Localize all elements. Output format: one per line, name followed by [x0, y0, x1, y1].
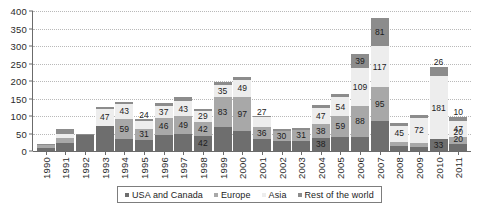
bar-segment-asia[interactable]: 109 [351, 68, 369, 106]
bar-segment-asia[interactable]: 47 [96, 109, 114, 125]
bar-segment-usa-and-canada[interactable] [273, 141, 291, 151]
bar-segment-europe[interactable]: 59 [115, 119, 133, 140]
bar-column-1996[interactable]: 4637 [154, 11, 174, 151]
bar-segment-rest-of-the-world[interactable]: 39 [351, 54, 369, 68]
bar-column-1999[interactable]: 8335 [213, 11, 233, 151]
bar-segment-asia[interactable]: 45 [390, 126, 408, 142]
bar-column-1992[interactable] [75, 11, 95, 151]
bar-segment-europe[interactable]: 88 [351, 106, 369, 137]
bar-segment-usa-and-canada[interactable] [351, 137, 369, 151]
bar-stack[interactable]: 4637 [155, 103, 173, 151]
bar-column-2007[interactable]: 9511781 [370, 11, 390, 151]
bar-segment-asia[interactable]: 43 [115, 104, 133, 119]
bar-segment-europe[interactable]: 46 [155, 118, 173, 134]
bar-segment-usa-and-canada[interactable] [115, 139, 133, 151]
bar-stack[interactable]: 45 [390, 123, 408, 151]
bar-column-1997[interactable]: 4943 [173, 11, 193, 151]
bar-segment-rest-of-the-world[interactable] [115, 102, 133, 104]
bar-segment-usa-and-canada[interactable] [155, 135, 173, 151]
bar-column-1993[interactable]: 47 [95, 11, 115, 151]
bar-segment-rest-of-the-world[interactable] [233, 77, 251, 80]
bar-segment-rest-of-the-world[interactable]: 81 [371, 18, 389, 46]
bar-stack[interactable]: 424229 [194, 109, 212, 151]
bar-stack[interactable]: 30 [273, 129, 291, 151]
bar-segment-usa-and-canada[interactable] [76, 135, 94, 151]
bar-segment-usa-and-canada[interactable]: 20 [449, 144, 467, 151]
bar-segment-europe[interactable] [56, 138, 74, 143]
bar-stack[interactable]: 3124 [135, 119, 153, 151]
bar-stack[interactable]: 9749 [233, 77, 251, 151]
bar-segment-rest-of-the-world[interactable] [331, 94, 349, 98]
bar-segment-rest-of-the-world[interactable] [312, 105, 330, 108]
bar-segment-asia[interactable]: 49 [233, 80, 251, 97]
bar-stack[interactable]: 31 [292, 128, 310, 151]
bar-segment-usa-and-canada[interactable] [135, 140, 153, 151]
bar-segment-europe[interactable]: 49 [174, 116, 192, 133]
bar-segment-rest-of-the-world[interactable] [76, 134, 94, 136]
bar-column-1994[interactable]: 5943 [115, 11, 135, 151]
bar-segment-europe[interactable]: 36 [253, 127, 271, 140]
bar-segment-usa-and-canada[interactable]: 33 [430, 139, 448, 151]
bar-column-2010[interactable]: 3318126 [429, 11, 449, 151]
bar-segment-asia[interactable]: 117 [371, 46, 389, 87]
bar-segment-rest-of-the-world[interactable]: 26 [430, 67, 448, 76]
bar-stack[interactable]: 4943 [174, 97, 192, 151]
bar-segment-usa-and-canada[interactable] [292, 141, 310, 152]
legend-item-asia[interactable]: Asia [262, 190, 287, 200]
bar-segment-asia[interactable]: 54 [331, 97, 349, 116]
bar-segment-usa-and-canada[interactable]: 38 [312, 138, 330, 151]
bar-segment-asia[interactable]: 37 [155, 106, 173, 119]
bar-segment-usa-and-canada[interactable] [56, 143, 74, 151]
bar-segment-asia[interactable]: 35 [214, 85, 232, 97]
bar-segment-asia[interactable]: 181 [430, 76, 448, 139]
bar-segment-rest-of-the-world[interactable] [174, 97, 192, 101]
bar-stack[interactable]: 3318126 [430, 67, 448, 151]
bar-stack[interactable]: 72 [410, 115, 428, 151]
bar-stack[interactable]: 8810939 [351, 54, 369, 151]
bar-segment-europe[interactable]: 30 [273, 131, 291, 142]
bar-stack[interactable]: 3627 [253, 116, 271, 151]
bar-column-1991[interactable] [56, 11, 76, 151]
bar-column-2005[interactable]: 5954 [331, 11, 351, 151]
bar-segment-asia[interactable]: 29 [194, 111, 212, 121]
bar-segment-usa-and-canada[interactable] [96, 126, 114, 151]
bar-stack[interactable]: 9511781 [371, 18, 389, 151]
bar-column-2000[interactable]: 9749 [232, 11, 252, 151]
bar-segment-usa-and-canada[interactable] [331, 137, 349, 151]
bar-column-1990[interactable] [36, 11, 56, 151]
bar-segment-rest-of-the-world[interactable] [390, 123, 408, 126]
bar-segment-usa-and-canada[interactable]: 42 [194, 136, 212, 151]
bar-segment-rest-of-the-world[interactable] [155, 103, 173, 105]
bar-segment-rest-of-the-world[interactable] [214, 82, 232, 85]
bar-segment-rest-of-the-world[interactable]: 10 [449, 117, 467, 121]
bar-stack[interactable]: 47 [96, 107, 114, 151]
bar-segment-asia[interactable]: 72 [410, 118, 428, 143]
bar-stack[interactable] [56, 129, 74, 151]
bar-segment-usa-and-canada[interactable] [233, 131, 251, 151]
bar-segment-rest-of-the-world[interactable] [410, 115, 428, 119]
bar-stack[interactable]: 5954 [331, 94, 349, 151]
bar-stack[interactable]: 383847 [312, 105, 330, 151]
bar-column-2003[interactable]: 31 [291, 11, 311, 151]
bar-segment-asia[interactable]: 24 [135, 121, 153, 129]
bar-segment-europe[interactable]: 31 [292, 130, 310, 141]
bar-segment-europe[interactable]: 83 [214, 97, 232, 126]
bar-segment-asia[interactable]: 43 [174, 101, 192, 116]
bar-segment-europe[interactable]: 59 [331, 116, 349, 137]
bar-segment-europe[interactable] [37, 145, 55, 147]
bar-column-2002[interactable]: 30 [272, 11, 292, 151]
bar-segment-rest-of-the-world[interactable] [37, 144, 55, 146]
bar-stack[interactable] [76, 134, 94, 152]
bar-segment-europe[interactable]: 31 [135, 129, 153, 140]
bar-segment-europe[interactable]: 38 [312, 124, 330, 137]
legend-item-europe[interactable]: Europe [214, 190, 251, 200]
bar-segment-europe[interactable]: 95 [371, 87, 389, 120]
bar-stack[interactable]: 20204710 [449, 117, 467, 151]
bar-column-1995[interactable]: 3124 [134, 11, 154, 151]
bar-segment-europe[interactable]: 97 [233, 97, 251, 131]
bar-column-2008[interactable]: 45 [390, 11, 410, 151]
bar-segment-usa-and-canada[interactable] [371, 121, 389, 151]
bar-segment-usa-and-canada[interactable] [253, 139, 271, 151]
bar-stack[interactable]: 8335 [214, 82, 232, 151]
bar-segment-rest-of-the-world[interactable] [56, 129, 74, 134]
